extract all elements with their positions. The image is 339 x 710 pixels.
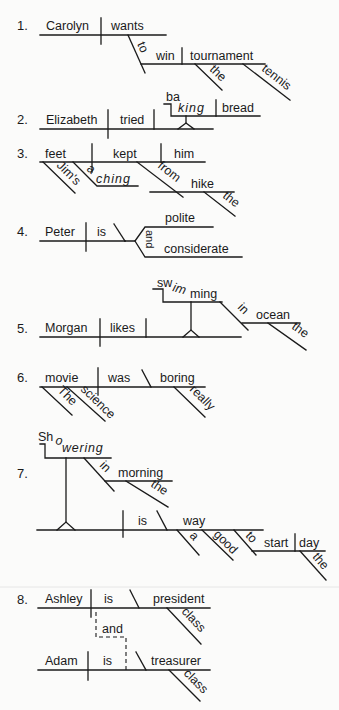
- subject-word: movie: [45, 371, 78, 385]
- complement-divider: [136, 652, 146, 670]
- gerund-word-part: wering: [62, 441, 104, 455]
- verb-word: is: [138, 514, 147, 528]
- subject-word: Peter: [45, 225, 75, 239]
- complement-divider: [114, 224, 125, 241]
- verb-word: was: [107, 371, 130, 385]
- diagram-6: 6. movie was boring The science really: [17, 368, 218, 422]
- infinitive-marker-word: to: [134, 40, 151, 55]
- pedestal-foot: [178, 123, 194, 129]
- complement-word: considerate: [164, 242, 229, 256]
- complement-word: way: [182, 514, 206, 528]
- diagram-number: 1.: [17, 18, 28, 33]
- modifier-word: tennis: [259, 61, 294, 93]
- sentence-diagrams-canvas: 1. Carolyn wants to win tournament the t…: [0, 0, 339, 710]
- prep-object-word: ocean: [256, 308, 290, 322]
- conjunction-word: and: [102, 622, 123, 636]
- infinitive-verb-word: start: [264, 536, 289, 550]
- object-word: tournament: [190, 49, 254, 63]
- verb-word: wants: [110, 19, 144, 33]
- conjunction-word: and: [144, 230, 156, 248]
- object-word: him: [174, 147, 194, 161]
- pedestal-foot: [183, 330, 199, 337]
- diagram-number: 5.: [17, 321, 28, 336]
- compound-upper-line: [125, 227, 213, 241]
- gerund-word-part: king: [178, 101, 205, 115]
- complement-divider: [130, 590, 139, 608]
- complement-word: president: [153, 592, 205, 606]
- modifier-word: the: [207, 62, 229, 84]
- gerund-word-part: sw: [157, 276, 173, 290]
- subject-word: Morgan: [45, 321, 87, 335]
- modifier-word: the: [310, 550, 332, 572]
- preposition-word: in: [235, 300, 252, 317]
- complement-word: polite: [165, 211, 195, 225]
- gerund-word-part: ming: [190, 287, 217, 301]
- complement-divider: [142, 370, 151, 387]
- diagram-number: 8.: [17, 592, 28, 607]
- subject-word: Elizabeth: [46, 113, 97, 127]
- modifier-word: the: [289, 319, 311, 341]
- gerund-word-part: im: [171, 280, 187, 297]
- preposition-word: in: [97, 458, 114, 475]
- diagram-number: 6.: [17, 370, 28, 385]
- modifier-word: a: [187, 529, 202, 544]
- modifier-word: class: [179, 604, 209, 634]
- infinitive-verb-word: win: [155, 49, 175, 63]
- complement-word: treasurer: [151, 654, 201, 668]
- subject-word: Carolyn: [46, 19, 89, 33]
- verb-word: is: [104, 592, 113, 606]
- verb-word: likes: [110, 321, 135, 335]
- complement-word: boring: [160, 371, 195, 385]
- complement-divider: [157, 511, 167, 530]
- diagram-number: 4.: [17, 224, 28, 239]
- verb-word: is: [97, 225, 106, 239]
- diagram-4: 4. Peter is polite considerate and: [17, 211, 242, 257]
- subject-word: Adam: [45, 654, 78, 668]
- modifier-word: really: [187, 382, 219, 414]
- diagram-number: 7.: [17, 466, 28, 481]
- gerund-object-word: bread: [222, 101, 254, 115]
- prep-object-word: hike: [191, 177, 214, 191]
- modifier-word: Jim's: [54, 158, 84, 188]
- diagram-8: 8. Ashley is president class and Adam is…: [17, 590, 211, 701]
- verb-word: kept: [113, 147, 137, 161]
- diagram-number: 3.: [17, 146, 28, 161]
- diagram-7: 7. Sh o wering in morning the is way a g…: [17, 430, 332, 580]
- diagram-3: 3. feet kept him Jim's a ching from hike…: [17, 144, 243, 216]
- verb-word: is: [103, 654, 112, 668]
- diagram-5: 5. Morgan likes sw im ming in ocean the: [17, 276, 312, 350]
- pedestal-foot: [57, 522, 75, 530]
- participle-word-part: ching: [96, 172, 131, 186]
- infinitive-object-word: day: [299, 536, 320, 550]
- verb-word: tried: [120, 113, 144, 127]
- diagram-number: 2.: [17, 112, 28, 127]
- diagram-2: 2. Elizabeth tried ba king bread: [17, 90, 260, 138]
- modifier-word: class: [181, 666, 211, 696]
- subject-word: Ashley: [45, 592, 83, 606]
- diagram-1: 1. Carolyn wants to win tournament the t…: [17, 18, 294, 100]
- gerund-word-part: Sh: [38, 430, 53, 444]
